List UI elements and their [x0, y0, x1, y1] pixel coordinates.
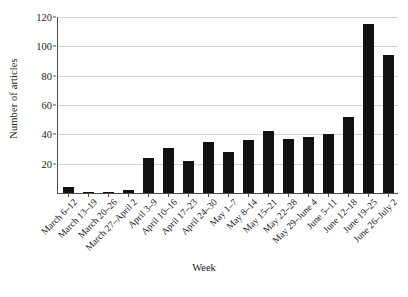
bar: [323, 134, 334, 193]
bar: [103, 192, 114, 193]
y-axis-tick-label: 80: [42, 70, 53, 81]
x-axis-tick-mark: [368, 194, 369, 197]
y-axis-tick-mark: [53, 134, 56, 135]
bar: [223, 152, 234, 193]
x-axis-tick-mark: [288, 194, 289, 197]
gridline: [58, 46, 398, 47]
x-axis-tick-mark: [268, 194, 269, 197]
y-axis-tick-mark: [53, 46, 56, 47]
y-axis-tick-mark: [53, 105, 56, 106]
x-axis-tick-mark: [208, 194, 209, 197]
y-axis-tick-label: 40: [42, 129, 53, 140]
bar: [123, 190, 134, 193]
figure-caption: [0, 289, 408, 297]
bar: [363, 24, 374, 193]
gridline: [58, 17, 398, 18]
x-axis-tick-mark: [88, 194, 89, 197]
bar: [243, 140, 254, 193]
x-axis-tick-mark: [188, 194, 189, 197]
x-axis-tick-mark: [308, 194, 309, 197]
y-axis-tick-label: 100: [36, 41, 52, 52]
bar: [63, 187, 74, 193]
x-axis-tick-mark: [348, 194, 349, 197]
bar: [203, 142, 214, 193]
x-axis-tick-mark: [248, 194, 249, 197]
y-axis-title: Number of articles: [2, 0, 24, 196]
gridline: [58, 105, 398, 106]
y-axis-tick-label: 120: [36, 12, 52, 23]
y-axis-ticks: 20406080100120: [24, 0, 56, 196]
bar: [283, 139, 294, 193]
y-axis-tick-mark: [53, 163, 56, 164]
bar: [343, 117, 354, 193]
bar: [383, 55, 394, 193]
gridline: [58, 76, 398, 77]
x-axis-tick-mark: [168, 194, 169, 197]
y-axis-title-text: Number of articles: [8, 58, 19, 139]
x-axis-tick-mark: [388, 194, 389, 197]
x-axis-tick-mark: [328, 194, 329, 197]
x-axis-tick-mark: [108, 194, 109, 197]
bar: [163, 148, 174, 193]
bar: [183, 161, 194, 193]
x-axis-title: Week: [0, 262, 408, 273]
y-axis-tick-mark: [53, 75, 56, 76]
x-axis-tick-mark: [128, 194, 129, 197]
bar: [83, 192, 94, 193]
x-axis-tick-mark: [228, 194, 229, 197]
bar: [263, 131, 274, 193]
bar: [143, 158, 154, 193]
plot-area: [58, 17, 398, 193]
x-axis-tick-mark: [148, 194, 149, 197]
y-axis-tick-label: 20: [42, 158, 53, 169]
x-axis-labels: March 6–12March 13–19March 20–26March 27…: [58, 197, 398, 259]
y-axis-tick-mark: [53, 17, 56, 18]
x-axis-tick-mark: [68, 194, 69, 197]
y-axis-tick-label: 60: [42, 100, 53, 111]
chart-figure: Number of articles 20406080100120 March …: [0, 0, 408, 297]
bar: [303, 137, 314, 193]
